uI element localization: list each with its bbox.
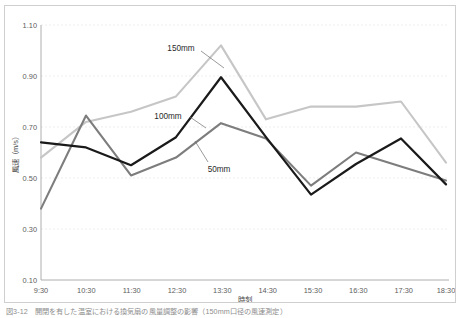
gridlines [41,25,449,229]
series-line-150mm [41,45,446,162]
x-tick-label: 9:30 [34,286,48,295]
leader-line-50mm [195,141,208,162]
y-tick-label: 0.70 [23,123,37,132]
y-axis-title: 風速（m/s） [11,133,20,173]
x-tick-label: 14:30 [258,286,277,295]
x-tick-label: 10:30 [77,286,96,295]
leader-line-100mm [190,117,206,128]
y-tick-label: 0.10 [23,276,37,285]
x-tick-label: 12:30 [168,286,187,295]
y-axis-tick-labels: 1.10 0.90 0.70 0.50 0.30 0.10 [23,21,37,285]
y-tick-label: 0.90 [23,72,37,81]
y-tick-label: 0.30 [23,225,37,234]
x-tick-label: 18:30 [437,286,455,295]
series-line-50mm [41,116,446,209]
series-label-100mm: 100mm [154,112,181,121]
chart-frame: 1.10 0.90 0.70 0.50 0.30 0.10 9:30 10:30… [4,5,456,303]
x-axis-title: 時刻 [238,295,252,302]
line-chart: 1.10 0.90 0.70 0.50 0.30 0.10 9:30 10:30… [5,6,455,302]
y-tick-label: 1.10 [23,21,37,30]
x-tick-label: 11:30 [123,286,141,295]
x-axis-tick-labels: 9:30 10:30 11:30 12:30 13:30 14:30 15:30… [34,286,455,295]
x-tick-label: 17:30 [394,286,413,295]
x-tick-label: 16:30 [349,286,368,295]
series-label-50mm: 50mm [208,165,231,174]
annotation-leaders [190,51,224,162]
figure-container: 1.10 0.90 0.70 0.50 0.30 0.10 9:30 10:30… [0,0,463,318]
x-tick-label: 15:30 [304,286,323,295]
y-tick-label: 0.50 [23,174,37,183]
series-label-150mm: 150mm [167,44,194,53]
figure-caption: 図3-12 開閉を有した温室における換気扇の風量調整の影響（150mm口径の風速… [6,307,458,317]
x-tick-label: 13:30 [213,286,232,295]
